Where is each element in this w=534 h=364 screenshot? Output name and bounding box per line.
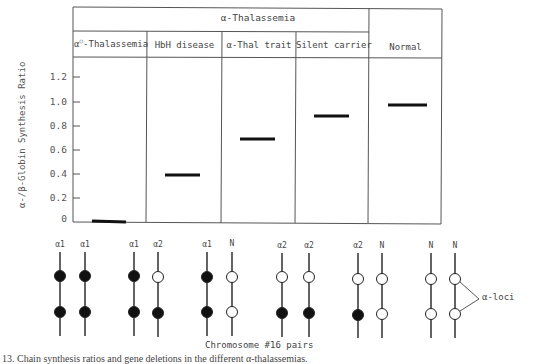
column-header-silent-carrier: Silent carrier [296, 40, 370, 50]
tick-1.0: 1.0 [37, 96, 67, 107]
chromosome-label: α2 [348, 241, 368, 250]
column-header-text: -Thalassemia [83, 39, 148, 49]
header-row2-divider [73, 57, 442, 58]
column-header-alpha-thal-trait: α-Thal trait [222, 40, 296, 50]
column-header-normal: Normal [369, 42, 442, 52]
tick-0.8: 0.8 [37, 120, 67, 131]
column-header-hbh: HbH disease [147, 40, 222, 50]
figure-caption: 13. Chain synthesis ratios and gene dele… [2, 353, 308, 364]
bar-alpha0-thal [92, 221, 126, 222]
chromosome-label: α2 [272, 241, 292, 250]
tick-0.4: 0.4 [37, 168, 67, 179]
chromosome-label: α2 [299, 241, 319, 250]
chromosome-label: N [421, 241, 441, 250]
chromosome-label: N [372, 241, 392, 250]
x-axis-label: Chromosome #16 pairs [205, 340, 313, 350]
tick-0.6: 0.6 [37, 144, 67, 155]
header-row1-divider [73, 31, 369, 32]
chromosome-label: N [445, 241, 465, 250]
x-axis [73, 222, 441, 224]
chromosome-label: α1 [124, 240, 144, 249]
column-header-alpha0-thal: α○-Thalassemia [74, 37, 146, 49]
alpha-loci-pointer [460, 282, 479, 311]
alpha-loci-label: α-loci [482, 292, 515, 302]
chromosome-label: α1 [75, 240, 95, 249]
chromosome-label: N [222, 239, 242, 248]
tick-1.2: 1.2 [37, 71, 67, 82]
tick-0.2: 0.2 [37, 192, 67, 203]
chromosome-label: α1 [197, 240, 217, 249]
chromosome-label: α1 [50, 240, 70, 249]
y-axis-label: α-/β-Globin Synthesis Ratio [17, 62, 27, 208]
tick-0: 0 [37, 213, 67, 224]
frame-top [73, 7, 442, 9]
chromosome-label: α2 [148, 240, 168, 249]
group-title: α-Thalassemia [147, 12, 369, 23]
